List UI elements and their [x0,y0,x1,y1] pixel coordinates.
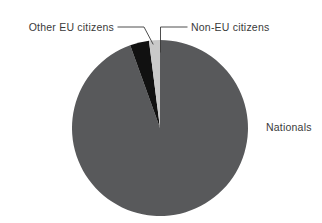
pie-label-other-eu-citizens: Other EU citizens [29,21,114,33]
pie-label-non-eu-citizens: Non-EU citizens [191,21,269,33]
pie-label-nationals: Nationals [266,121,312,133]
pie-chart-svg: Other EU citizens Non-EU citizens Nation… [0,0,322,223]
pie-chart-figure: Other EU citizens Non-EU citizens Nation… [0,0,322,223]
